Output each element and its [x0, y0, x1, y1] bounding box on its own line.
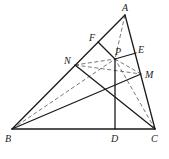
label-A: A: [121, 2, 129, 13]
label-D: D: [110, 133, 119, 144]
geometry-figure: A B C D E F M N P: [0, 0, 169, 159]
label-F: F: [88, 32, 96, 43]
segment-PF: [98, 42, 115, 59]
label-N: N: [63, 55, 72, 66]
segment-AB: [12, 15, 125, 129]
label-P: P: [114, 46, 121, 57]
label-M: M: [144, 69, 154, 80]
label-C: C: [151, 133, 158, 144]
label-B: B: [5, 133, 11, 144]
label-E: E: [137, 44, 144, 55]
segment-BP: [12, 59, 115, 129]
